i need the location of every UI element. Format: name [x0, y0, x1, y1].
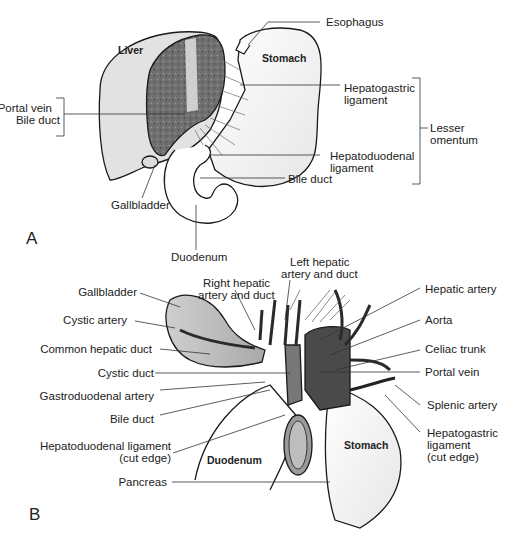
duodenum-label-a: Duodenum [171, 251, 227, 263]
celiac-trunk-label: Celiac trunk [425, 343, 486, 355]
aorta-label: Aorta [425, 314, 453, 326]
bile-duct-left-label-a: Bile duct [16, 114, 60, 126]
liver-label: Liver [118, 44, 143, 56]
left-hepatic-label-1: Left hepatic [290, 256, 349, 268]
stomach-label: Stomach [262, 52, 306, 64]
gastroduodenal-artery-label: Gastroduodenal artery [40, 390, 154, 402]
pancreas-label: Pancreas [118, 476, 167, 488]
gallbladder-label-a: Gallbladder [111, 199, 170, 211]
lesser-omentum-label-1: Lesser [430, 122, 465, 134]
hepatoduodenal-ligament-label-1: Hepatoduodenal [330, 150, 414, 162]
right-hepatic-label-1: Right hepatic [203, 277, 270, 289]
portal-vein-label-a: Portal vein [0, 102, 52, 114]
hepatogastric-cut-label-1: Hepatogastric [427, 427, 498, 439]
panel-b-drawing [166, 290, 401, 528]
splenic-artery-label: Splenic artery [427, 399, 497, 411]
left-hepatic-label-2: artery and duct [281, 268, 358, 280]
hepatoduodenal-ligament-label-2: ligament [330, 162, 373, 174]
hepatogastric-ligament-label-2: ligament [344, 94, 387, 106]
lesser-omentum-label-2: omentum [430, 134, 478, 146]
hepatogastric-ligament-label-1: Hepatogastric [344, 82, 415, 94]
hepatoduodenal-cut-label-1: Hepatoduodenal ligament [40, 440, 171, 452]
hepatogastric-cut-label-3: (cut edge) [427, 451, 479, 463]
bile-duct-label-a: Bile duct [288, 173, 332, 185]
portal-vein-label-b: Portal vein [425, 366, 479, 378]
duodenum-label-b: Duodenum [207, 454, 262, 466]
gallbladder-label-b: Gallbladder [78, 286, 137, 298]
bile-duct-label-b: Bile duct [110, 413, 154, 425]
stomach-label-b: Stomach [344, 439, 388, 451]
panel-a-letter: A [26, 229, 37, 249]
hepatic-artery-label: Hepatic artery [425, 283, 497, 295]
cystic-duct-label: Cystic duct [98, 367, 154, 379]
hepatoduodenal-cut-label-2: (cut edge) [119, 452, 171, 464]
right-hepatic-label-2: artery and duct [198, 289, 275, 301]
panel-b-letter: B [29, 505, 40, 525]
cystic-artery-label: Cystic artery [63, 314, 127, 326]
hepatogastric-cut-label-2: ligament [427, 439, 470, 451]
esophagus-label: Esophagus [326, 16, 384, 28]
common-hepatic-duct-label: Common hepatic duct [40, 343, 152, 355]
